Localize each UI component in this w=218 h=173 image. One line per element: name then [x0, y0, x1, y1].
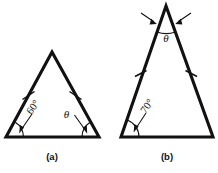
triangle-b-outline: [121, 6, 213, 137]
panel-a: 60° θ (a): [6, 52, 99, 162]
angle-label-theta-b: θ: [163, 32, 169, 44]
angle-pointer-a-left: [19, 114, 32, 134]
panel-b: θ 70° (b): [121, 6, 213, 162]
angle-arc-b-left: [127, 120, 139, 137]
angle-pointer-a-right: [75, 115, 88, 134]
apex-pointer-b-right: [175, 13, 191, 24]
angle-pointer-b-left: [134, 113, 146, 133]
caption-b: (b): [161, 151, 173, 162]
triangle-a-outline: [6, 52, 99, 137]
angle-label-70: 70°: [138, 97, 155, 115]
angle-label-theta-a: θ: [64, 108, 70, 120]
caption-a: (a): [46, 151, 58, 162]
geometry-figure: 60° θ (a): [0, 0, 218, 173]
apex-pointer-b-left: [141, 13, 157, 24]
diagram-canvas: 60° θ (a): [0, 0, 218, 173]
